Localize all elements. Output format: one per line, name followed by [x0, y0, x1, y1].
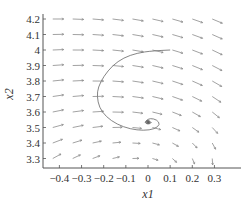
y-tick-label: 4 [35, 44, 41, 56]
field-arrow [93, 50, 104, 51]
y-tick-label: 4.1 [26, 29, 40, 41]
field-arrow [212, 112, 219, 118]
field-arrow [172, 50, 183, 53]
x-tick-label: −0.2 [94, 172, 114, 184]
y-axis-label: x2 [2, 88, 16, 100]
field-arrow [73, 80, 84, 81]
y-tick-label: 3.7 [26, 91, 40, 103]
y-tick-label: 4.2 [26, 13, 40, 25]
y-tick-label: 3.5 [26, 122, 40, 134]
field-arrow [192, 50, 202, 54]
field-arrow [192, 81, 202, 85]
y-tick-label: 3.8 [26, 75, 40, 87]
field-arrow [172, 35, 183, 38]
field-arrow [113, 97, 124, 98]
field-arrow [53, 139, 63, 143]
field-arrow [212, 66, 222, 71]
x-tick-label: −0.1 [116, 172, 136, 184]
y-tick-label: 3.6 [26, 106, 40, 118]
field-arrow [192, 112, 200, 117]
field-arrow [212, 35, 222, 39]
y-tick-label: 3.3 [26, 153, 40, 165]
x-axis-label: x1 [141, 187, 153, 201]
x-tick-label: −0.4 [49, 172, 69, 184]
field-arrow [192, 143, 197, 148]
field-arrow [212, 128, 217, 134]
x-tick-label: 0.3 [208, 172, 222, 184]
field-arrow [192, 19, 202, 23]
field-arrow [53, 154, 61, 158]
field-arrow [192, 66, 202, 70]
field-arrow [192, 128, 199, 133]
vector-field [53, 18, 223, 165]
y-tick-label: 3.9 [26, 60, 40, 72]
field-arrow [212, 50, 222, 55]
equilibrium-spiral [145, 121, 151, 124]
field-arrow [212, 97, 221, 103]
x-tick-label: 0 [145, 172, 151, 184]
field-arrow [172, 66, 182, 69]
field-arrow [172, 81, 182, 84]
field-arrow [212, 81, 222, 87]
y-tick-label: 3.4 [26, 137, 40, 149]
field-arrow [192, 35, 202, 39]
phase-plane-chart: −0.4−0.3−0.2−0.100.10.20.3 3.33.43.53.63… [0, 0, 245, 208]
x-tick-label: 0.2 [185, 172, 199, 184]
trajectory-curve [97, 50, 170, 130]
x-tick-label: 0.1 [163, 172, 177, 184]
field-arrow [192, 97, 202, 102]
field-arrow [172, 97, 182, 101]
field-arrow [212, 19, 222, 23]
x-tick-label: −0.3 [72, 172, 92, 184]
